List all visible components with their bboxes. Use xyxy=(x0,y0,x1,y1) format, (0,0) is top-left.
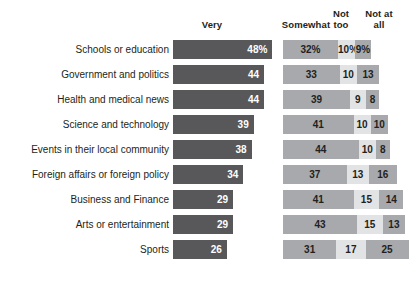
chart-row: Government and politics44331013 xyxy=(0,64,409,89)
column-header-not-at-all: Not at all xyxy=(354,8,404,30)
not-at-all-segment-value: 8 xyxy=(366,93,380,106)
chart-container: Very Somewhat Not too Not at all Schools… xyxy=(0,0,409,291)
somewhat-segment: 43 xyxy=(283,215,357,234)
somewhat-segment-value: 32% xyxy=(283,43,338,56)
not-too-segment-value: 13 xyxy=(347,168,369,181)
not-at-all-segment-value: 14 xyxy=(379,193,403,206)
stacked-bar: 411514 xyxy=(283,190,403,209)
not-too-segment-value: 10 xyxy=(354,118,371,131)
very-bar: 34 xyxy=(173,165,243,184)
not-at-all-segment: 13 xyxy=(357,65,379,84)
not-too-segment: 13 xyxy=(347,165,369,184)
not-at-all-segment: 10 xyxy=(371,115,388,134)
not-too-segment-value: 10 xyxy=(340,68,357,81)
not-at-all-segment-value: 9% xyxy=(355,43,370,56)
not-too-segment: 17 xyxy=(336,240,365,259)
row-label: Health and medical news xyxy=(1,93,169,106)
somewhat-segment: 31 xyxy=(283,240,336,259)
very-value: 44 xyxy=(248,68,259,81)
column-header-very: Very xyxy=(186,19,238,30)
somewhat-segment: 39 xyxy=(283,90,350,109)
not-too-segment-value: 17 xyxy=(336,243,365,256)
somewhat-segment: 41 xyxy=(283,190,354,209)
chart-row: Business and Finance29411514 xyxy=(0,189,409,214)
stacked-bar: 411010 xyxy=(283,115,388,134)
column-header-not-at-all-line2: all xyxy=(374,19,385,30)
not-at-all-segment: 9% xyxy=(355,40,370,59)
row-label: Government and politics xyxy=(1,68,169,81)
very-value: 29 xyxy=(217,218,228,231)
not-at-all-segment-value: 16 xyxy=(369,168,397,181)
not-at-all-segment: 8 xyxy=(376,140,390,159)
very-bar: 39 xyxy=(173,115,254,134)
somewhat-segment-value: 37 xyxy=(283,168,347,181)
not-too-segment: 10 xyxy=(354,115,371,134)
very-value: 39 xyxy=(238,118,249,131)
chart-row: Events in their local community3844108 xyxy=(0,139,409,164)
chart-row: Foreign affairs or foreign policy3437131… xyxy=(0,164,409,189)
not-at-all-segment: 16 xyxy=(369,165,397,184)
very-bar: 38 xyxy=(173,140,252,159)
not-too-segment: 10% xyxy=(338,40,355,59)
row-label: Events in their local community xyxy=(1,143,169,156)
not-too-segment: 10 xyxy=(359,140,376,159)
row-label: Schools or education xyxy=(1,43,169,56)
very-value: 29 xyxy=(217,193,228,206)
not-at-all-segment-value: 8 xyxy=(376,143,390,156)
not-too-segment-value: 15 xyxy=(354,193,380,206)
row-label: Arts or entertainment xyxy=(1,218,169,231)
very-value: 44 xyxy=(248,93,259,106)
not-at-all-segment-value: 13 xyxy=(357,68,379,81)
very-value: 48% xyxy=(247,43,267,56)
somewhat-segment-value: 44 xyxy=(283,143,359,156)
not-at-all-segment: 25 xyxy=(366,240,409,259)
very-bar: 48% xyxy=(173,40,272,59)
stacked-bar: 431513 xyxy=(283,215,405,234)
not-at-all-segment-value: 10 xyxy=(371,118,388,131)
somewhat-segment-value: 41 xyxy=(283,193,354,206)
not-too-segment-value: 15 xyxy=(357,218,383,231)
column-header-not-at-all-line1: Not at xyxy=(365,8,393,19)
somewhat-segment-value: 31 xyxy=(283,243,336,256)
not-too-segment-value: 10% xyxy=(338,43,355,56)
stacked-bar: 371316 xyxy=(283,165,397,184)
very-bar: 44 xyxy=(173,65,264,84)
not-too-segment: 15 xyxy=(354,190,380,209)
very-bar: 29 xyxy=(173,190,233,209)
not-at-all-segment: 13 xyxy=(383,215,405,234)
stacked-bar: 331013 xyxy=(283,65,379,84)
row-label: Science and technology xyxy=(1,118,169,131)
not-too-segment: 9 xyxy=(350,90,365,109)
somewhat-segment-value: 41 xyxy=(283,118,354,131)
somewhat-segment-value: 43 xyxy=(283,218,357,231)
chart-column-headers: Very Somewhat Not too Not at all xyxy=(0,0,409,38)
somewhat-segment: 32% xyxy=(283,40,338,59)
stacked-bar: 311725 xyxy=(283,240,409,259)
somewhat-segment-value: 39 xyxy=(283,93,350,106)
chart-row: Arts or entertainment29431513 xyxy=(0,214,409,239)
not-at-all-segment-value: 25 xyxy=(366,243,409,256)
not-too-segment: 15 xyxy=(357,215,383,234)
not-too-segment-value: 9 xyxy=(350,93,365,106)
somewhat-segment: 37 xyxy=(283,165,347,184)
row-label: Sports xyxy=(1,243,169,256)
very-value: 34 xyxy=(227,168,238,181)
somewhat-segment: 44 xyxy=(283,140,359,159)
chart-row: Schools or education48%32%10%9% xyxy=(0,39,409,64)
very-value: 26 xyxy=(211,243,222,256)
not-at-all-segment-value: 13 xyxy=(383,218,405,231)
chart-row: Sports26311725 xyxy=(0,239,409,264)
chart-row: Science and technology39411010 xyxy=(0,114,409,139)
row-label: Foreign affairs or foreign policy xyxy=(1,168,169,181)
column-header-not-too-line1: Not xyxy=(333,8,349,19)
chart-row: Health and medical news443998 xyxy=(0,89,409,114)
somewhat-segment: 41 xyxy=(283,115,354,134)
stacked-bar: 32%10%9% xyxy=(283,40,371,59)
not-at-all-segment: 14 xyxy=(379,190,403,209)
very-bar: 29 xyxy=(173,215,233,234)
stacked-bar: 3998 xyxy=(283,90,379,109)
column-header-not-too-line2: too xyxy=(333,19,348,30)
very-bar: 26 xyxy=(173,240,227,259)
somewhat-segment-value: 33 xyxy=(283,68,340,81)
not-at-all-segment: 8 xyxy=(366,90,380,109)
